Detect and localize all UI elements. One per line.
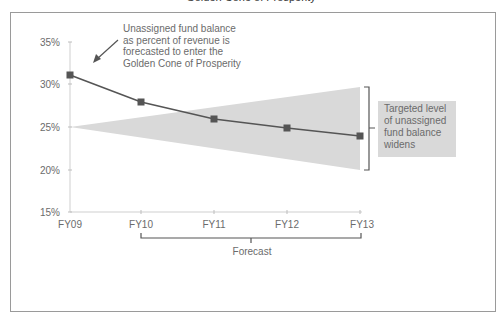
marker-fy10 <box>138 99 145 106</box>
cone-annotation-line: Targeted level <box>384 103 458 115</box>
y-tick-label: 15% <box>40 207 60 218</box>
x-tick-label: FY10 <box>129 219 153 230</box>
title-fragment: Golden Cone of Prosperity <box>0 0 502 3</box>
line-annotation-line: forecasted to enter the <box>123 46 323 58</box>
cone-annotation: Targeted level of unassigned fund balanc… <box>384 103 458 151</box>
x-tick-label: FY09 <box>58 219 82 230</box>
line-annotation-line: as percent of revenue is <box>123 35 323 47</box>
cone-annotation-line: widens <box>384 139 458 151</box>
marker-fy12 <box>284 125 291 132</box>
x-tick-label: FY11 <box>202 219 226 230</box>
x-tick-label: FY13 <box>350 219 374 230</box>
marker-fy11 <box>211 116 218 123</box>
marker-fy13 <box>357 133 364 140</box>
line-annotation-line: Unassigned fund balance <box>123 23 323 35</box>
cone-annotation-line: fund balance <box>384 127 458 139</box>
arrow-icon <box>93 40 118 63</box>
forecast-bracket <box>141 233 361 243</box>
marker-fy09 <box>67 72 74 79</box>
forecast-label: Forecast <box>233 246 272 257</box>
cone-annotation-line: of unassigned <box>384 115 458 127</box>
cone-bracket <box>364 87 375 170</box>
line-annotation: Unassigned fund balance as percent of re… <box>123 23 323 69</box>
line-annotation-line: Golden Cone of Prosperity <box>123 58 323 70</box>
target-cone <box>70 87 360 170</box>
x-tick-label: FY12 <box>275 219 299 230</box>
y-tick-label: 35% <box>40 37 60 48</box>
y-tick-label: 20% <box>40 165 60 176</box>
y-tick-label: 25% <box>40 122 60 133</box>
y-tick-label: 30% <box>40 79 60 90</box>
